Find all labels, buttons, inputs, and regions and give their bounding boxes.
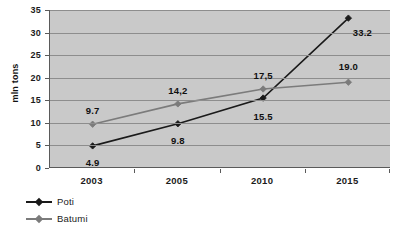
x-axis: 2003200520102015	[49, 169, 390, 191]
series-line-batumi	[93, 82, 349, 124]
x-tick-label: 2003	[80, 175, 102, 186]
gridline	[50, 145, 390, 146]
series-layer	[50, 10, 391, 168]
y-axis: mln tons 05101520253035	[0, 0, 49, 178]
x-tick-label: 2005	[166, 175, 188, 186]
x-tick-label: 2015	[336, 175, 358, 186]
gridline	[50, 100, 390, 101]
gridline	[50, 10, 390, 11]
legend-marker-diamond-icon	[35, 214, 43, 222]
y-tick-label: 5	[36, 141, 41, 150]
y-tick-label: 30	[30, 28, 41, 37]
y-tick-label: 10	[30, 118, 41, 127]
legend-label: Poti	[57, 196, 74, 207]
x-tick-mark	[389, 169, 390, 173]
line-chart: mln tons 05101520253035 4.99.815.533.29.…	[0, 0, 404, 234]
data-point-label: 9.7	[86, 105, 100, 116]
y-axis-title: mln tons	[10, 48, 20, 118]
legend-item-batumi[interactable]: Batumi	[26, 210, 186, 227]
data-point-marker	[175, 101, 181, 107]
y-tick-label: 35	[30, 6, 41, 15]
data-point-marker	[345, 79, 351, 85]
legend-label: Batumi	[57, 213, 88, 224]
plot-area: 4.99.815.533.29.714,217,519.0	[49, 10, 390, 168]
chart-legend: PotiBatumi	[26, 193, 186, 227]
legend-swatch	[26, 214, 52, 224]
gridline	[50, 33, 390, 34]
data-point-label: 33.2	[353, 27, 372, 38]
x-tick-label: 2010	[251, 175, 273, 186]
data-point-label: 4.9	[86, 156, 100, 167]
y-tick-label: 0	[36, 164, 41, 173]
plot-inner: 4.99.815.533.29.714,217,519.0	[50, 10, 390, 167]
gridline	[50, 78, 390, 79]
data-point-label: 9.8	[171, 134, 185, 145]
legend-swatch	[26, 197, 52, 207]
x-tick-mark	[305, 169, 306, 173]
x-tick-mark	[220, 169, 221, 173]
legend-marker-diamond-icon	[35, 197, 43, 205]
data-point-label: 19.0	[339, 61, 358, 72]
y-tick-label: 25	[30, 51, 41, 60]
gridline	[50, 55, 390, 56]
data-point-label: 14,2	[168, 84, 187, 95]
data-point-label: 15.5	[253, 111, 272, 122]
legend-item-poti[interactable]: Poti	[26, 193, 186, 210]
data-point-marker	[260, 86, 266, 92]
data-point-label: 17,5	[253, 70, 272, 81]
x-tick-mark	[134, 169, 135, 173]
y-tick-label: 15	[30, 96, 41, 105]
y-tick-label: 20	[30, 73, 41, 82]
series-line-poti	[93, 18, 349, 146]
gridline	[50, 123, 390, 124]
